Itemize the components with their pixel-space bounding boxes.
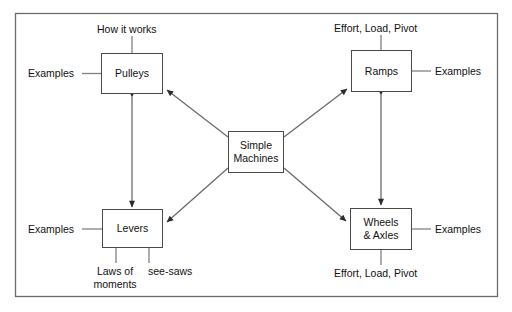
node-ramps[interactable]: Ramps bbox=[351, 50, 412, 92]
connector-center-to-pulleys bbox=[167, 90, 228, 137]
label-see-saws: see-saws bbox=[148, 265, 192, 278]
simple-machines-diagram: Pulleys Ramps Simple Machines Levers Whe… bbox=[0, 0, 512, 312]
node-simple-machines-label-line2: Machines bbox=[234, 152, 279, 165]
node-pulleys-label: Pulleys bbox=[115, 67, 149, 80]
label-effort-load-pivot-top: Effort, Load, Pivot bbox=[334, 22, 417, 35]
node-wheels-axles[interactable]: Wheels & Axles bbox=[350, 208, 412, 250]
connector-center-to-levers bbox=[167, 168, 228, 222]
connector-center-to-ramps bbox=[284, 89, 347, 137]
connector-center-to-wheels bbox=[284, 168, 346, 221]
label-examples-levers: Examples bbox=[28, 223, 74, 236]
node-pulleys[interactable]: Pulleys bbox=[101, 53, 163, 94]
label-examples-ramps: Examples bbox=[435, 65, 481, 78]
label-how-it-works: How it works bbox=[97, 23, 157, 36]
node-levers[interactable]: Levers bbox=[102, 209, 163, 248]
node-simple-machines[interactable]: Simple Machines bbox=[228, 131, 284, 173]
node-ramps-label: Ramps bbox=[365, 65, 398, 78]
node-wheels-axles-label-line2: & Axles bbox=[363, 229, 398, 242]
node-simple-machines-label-line1: Simple bbox=[240, 139, 272, 152]
node-levers-label: Levers bbox=[117, 222, 149, 235]
node-wheels-axles-label-line1: Wheels bbox=[363, 216, 398, 229]
label-examples-pulleys: Examples bbox=[28, 67, 74, 80]
label-laws-of-moments: Laws of moments bbox=[84, 265, 146, 290]
label-effort-load-pivot-bottom: Effort, Load, Pivot bbox=[334, 267, 417, 280]
label-examples-wheels: Examples bbox=[435, 223, 481, 236]
